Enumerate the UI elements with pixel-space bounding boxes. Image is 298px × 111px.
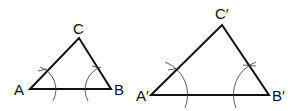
angle-arc-a <box>40 67 56 101</box>
angle-arc-b <box>85 67 101 101</box>
triangle-abc-edges <box>30 38 111 89</box>
arc-tick-b-prime <box>243 65 256 66</box>
triangle-prime-edges <box>151 25 269 95</box>
vertex-label-c: C <box>73 20 84 37</box>
triangle-abc: A B C <box>14 20 124 101</box>
vertex-label-c-prime: C′ <box>215 5 229 22</box>
similar-triangles-diagram: A B C A′ B′ C′ <box>0 0 298 111</box>
triangle-a-prime-b-prime-c-prime: A′ B′ C′ <box>136 5 285 108</box>
vertex-label-b: B <box>114 81 124 98</box>
vertex-label-a-prime: A′ <box>136 87 149 104</box>
vertex-label-a: A <box>14 81 24 98</box>
vertex-label-b-prime: B′ <box>272 87 285 104</box>
